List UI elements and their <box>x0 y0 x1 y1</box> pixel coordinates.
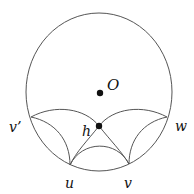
point-O <box>97 90 103 96</box>
label-v: v <box>124 175 132 191</box>
label-u: u <box>65 175 74 191</box>
label-O: O <box>107 76 119 94</box>
label-w: w <box>175 118 187 134</box>
arc-vprime-h-v <box>31 109 129 164</box>
point-h <box>96 123 102 129</box>
arc-vprime-u <box>31 117 70 165</box>
hyperbolic-disk-diagram: O h v’ w u v <box>0 0 194 194</box>
arc-w-v <box>129 117 167 164</box>
label-v-prime: v’ <box>9 119 21 135</box>
arc-u-v <box>70 146 129 165</box>
label-h: h <box>82 123 91 139</box>
